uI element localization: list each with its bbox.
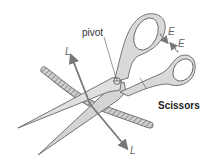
lower-blade [38, 82, 126, 155]
effort-label-top: E [168, 27, 175, 37]
pivot-leader-line [104, 37, 116, 78]
load-label-bottom: L [130, 146, 136, 156]
effort-label-bottom: E [178, 39, 185, 49]
pivot-screw [114, 78, 121, 85]
upper-handle [114, 14, 165, 82]
pivot-label: pivot [82, 28, 103, 38]
rope [44, 70, 150, 125]
load-label-top: L [65, 47, 71, 57]
scissors-diagram: pivot L L E E Scissors [0, 0, 211, 167]
scissors-illustration [0, 0, 211, 167]
diagram-title: Scissors [158, 101, 200, 111]
